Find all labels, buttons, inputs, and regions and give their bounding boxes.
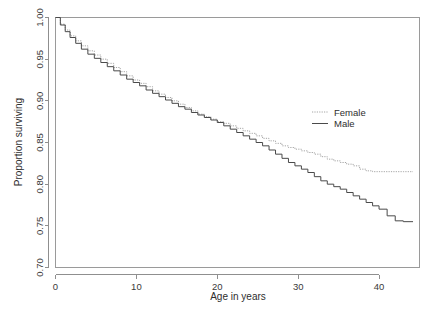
x-tick-label: 30: [293, 281, 304, 292]
y-tick-label: 0.70: [34, 258, 45, 277]
survival-curve-chart: 0.700.750.800.850.900.951.00 010203040 F…: [0, 0, 440, 310]
x-tick-label: 40: [374, 281, 385, 292]
chart-container: 0.700.750.800.850.900.951.00 010203040 F…: [0, 0, 440, 310]
legend-label-female[interactable]: Female: [334, 107, 366, 118]
legend-label-male[interactable]: Male: [334, 118, 355, 129]
x-axis-title: Age in years: [210, 291, 266, 302]
y-tick-label: 0.95: [34, 50, 45, 69]
x-tick-label: 10: [131, 281, 142, 292]
y-axis-title: Proportion surviving: [13, 98, 24, 186]
y-tick-label: 0.90: [34, 92, 45, 111]
x-tick-label: 20: [212, 281, 223, 292]
y-tick-label: 0.80: [34, 175, 45, 194]
y-tick-label: 1.00: [34, 8, 45, 27]
y-tick-label: 0.85: [34, 133, 45, 152]
chart-background: [0, 0, 440, 310]
x-tick-label: 0: [53, 281, 58, 292]
y-tick-label: 0.75: [34, 217, 45, 236]
